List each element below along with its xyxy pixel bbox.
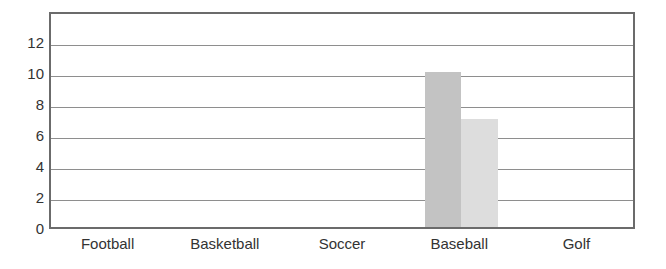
bar [461, 119, 497, 228]
y-axis-tick-label: 2 [10, 190, 44, 205]
bar-chart: 024681012 FootballBasketballSoccerBaseba… [0, 0, 666, 269]
y-axis-tick-label: 10 [10, 66, 44, 81]
x-axis-tick-label: Golf [518, 233, 635, 257]
x-axis-tick-label: Basketball [166, 233, 283, 257]
y-axis-tick-label: 8 [10, 97, 44, 112]
y-axis-tick-label: 0 [10, 221, 44, 236]
y-axis-tick-label: 6 [10, 128, 44, 143]
bars-layer [51, 14, 633, 227]
x-axis-tick-label: Football [49, 233, 166, 257]
x-axis-tick-label: Baseball [401, 233, 518, 257]
x-axis-tick-label: Soccer [283, 233, 400, 257]
plot-area [49, 12, 635, 229]
y-axis-tick-label: 12 [10, 35, 44, 50]
bar [425, 72, 461, 227]
y-axis: 024681012 [6, 12, 44, 229]
y-axis-tick-label: 4 [10, 159, 44, 174]
x-axis: FootballBasketballSoccerBaseballGolf [49, 233, 635, 257]
